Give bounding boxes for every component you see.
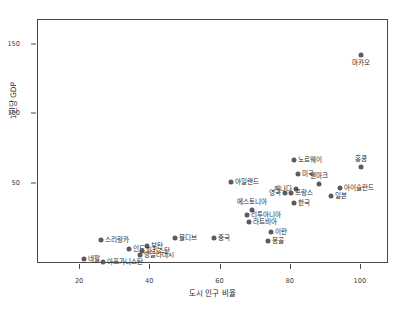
x-tick-mark	[220, 264, 221, 269]
data-point[interactable]	[246, 220, 251, 225]
data-point-label: 아이슬란드	[344, 184, 374, 191]
data-point-label: 일본	[335, 193, 347, 200]
y-tick-mark	[31, 182, 36, 183]
x-tick-label: 40	[129, 277, 169, 285]
data-point-label: 덴마크	[310, 173, 328, 180]
data-point[interactable]	[244, 213, 249, 218]
data-point-label: 홍콩	[355, 156, 367, 163]
data-point[interactable]	[288, 191, 293, 196]
data-point-label: 아프가니스탄	[107, 259, 143, 266]
data-point-label: 한국	[298, 200, 310, 207]
x-tick-mark	[149, 264, 150, 269]
data-point[interactable]	[292, 201, 297, 206]
data-point-label: 이란	[275, 229, 287, 236]
x-tick-label: 80	[270, 277, 310, 285]
data-point-label: 라트비아	[253, 219, 277, 226]
data-point-label: 프랑스	[295, 190, 313, 197]
data-point-label: 스리랑카	[105, 236, 129, 243]
data-point-label: 영국	[269, 190, 281, 197]
x-tick-mark	[290, 264, 291, 269]
data-point-label: 방글라데시	[144, 252, 174, 259]
data-point[interactable]	[229, 180, 234, 185]
data-point-label: 네팔	[88, 256, 100, 263]
x-tick-label: 100	[340, 277, 380, 285]
data-point-label: 에스토니아	[237, 199, 267, 206]
data-point[interactable]	[358, 52, 363, 57]
y-tick-label: 150	[0, 40, 20, 48]
data-point[interactable]	[127, 246, 132, 251]
data-point[interactable]	[292, 158, 297, 163]
data-point[interactable]	[100, 259, 105, 264]
x-axis-label: 도시 인구 비율	[37, 287, 388, 298]
y-tick-label: 50	[0, 179, 20, 187]
data-point-label: 아일랜드	[235, 179, 259, 186]
scatter-chart: 1인당 GDP 50100150 20406080100 마카오홍콩노르웨이미국…	[0, 0, 409, 313]
data-point[interactable]	[81, 257, 86, 262]
data-point-label: 노르웨이	[298, 157, 322, 164]
data-point[interactable]	[269, 230, 274, 235]
data-point[interactable]	[283, 191, 288, 196]
data-point[interactable]	[265, 239, 270, 244]
x-tick-label: 60	[200, 277, 240, 285]
data-point-label: 몰디브	[179, 234, 197, 241]
data-point-label: 몽골	[272, 238, 284, 245]
data-point[interactable]	[172, 235, 177, 240]
x-tick-mark	[79, 264, 80, 269]
y-tick-mark	[31, 113, 36, 114]
y-tick-mark	[31, 43, 36, 44]
y-axis-label: 1인당 GDP	[7, 51, 18, 151]
data-point[interactable]	[329, 194, 334, 199]
data-point[interactable]	[316, 181, 321, 186]
plot-area: 마카오홍콩노르웨이미국아이슬란드아일랜드덴마크캐나다프랑스영국일본한국에스토니아…	[37, 19, 388, 263]
x-tick-mark	[360, 264, 361, 269]
data-point[interactable]	[211, 235, 216, 240]
data-point-label: 마카오	[352, 60, 370, 67]
y-tick-label: 100	[0, 109, 20, 117]
data-point[interactable]	[358, 164, 363, 169]
x-tick-label: 20	[59, 277, 99, 285]
data-point[interactable]	[295, 171, 300, 176]
data-point[interactable]	[99, 237, 104, 242]
data-point-label: 중국	[218, 234, 230, 241]
data-point[interactable]	[337, 185, 342, 190]
